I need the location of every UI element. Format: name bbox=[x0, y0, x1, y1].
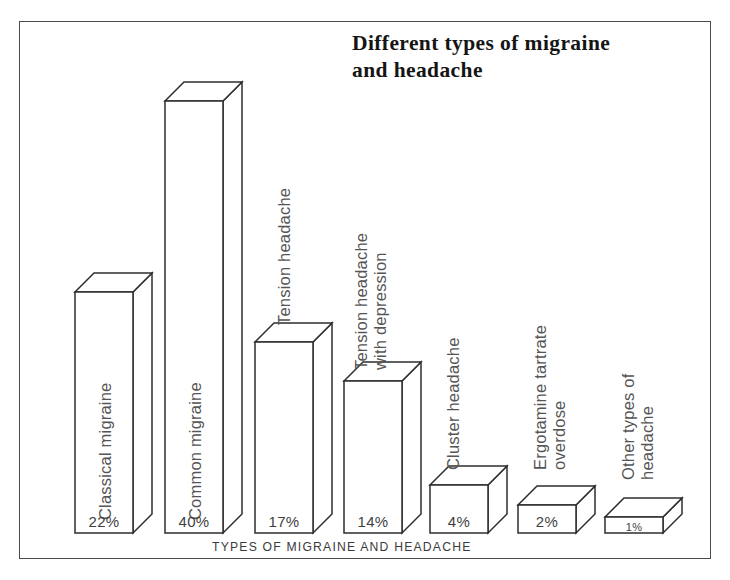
bar-value-label-5: 2% bbox=[518, 513, 576, 530]
bar-category-label-4: Cluster headache bbox=[444, 337, 463, 470]
bar-value-label-4: 4% bbox=[430, 513, 488, 530]
bar-category-label-5: Ergotamine tartrate overdose bbox=[531, 271, 569, 470]
bar-value-label-2: 17% bbox=[255, 513, 313, 530]
bar-category-label-1: Common migraine bbox=[186, 382, 205, 520]
bar-front-face-3 bbox=[344, 381, 402, 533]
bar-side-face-0 bbox=[133, 273, 152, 533]
chart-figure: Different types of migraine and headache… bbox=[0, 0, 730, 580]
bar-category-label-2: Tension headache bbox=[275, 188, 294, 325]
x-axis-label: TYPES OF MIGRAINE AND HEADACHE bbox=[212, 540, 471, 554]
bar-side-face-3 bbox=[402, 362, 421, 533]
bar-value-label-1: 40% bbox=[165, 513, 223, 530]
bar-category-label-3: Tension headache with depression bbox=[352, 233, 390, 370]
bar-value-label-6: 1% bbox=[605, 521, 663, 533]
bar-value-label-0: 22% bbox=[75, 513, 133, 530]
bar-value-label-3: 14% bbox=[344, 513, 402, 530]
bar-category-label-0: Classical migraine bbox=[96, 383, 115, 520]
bar-category-label-6: Other types of headache bbox=[619, 369, 657, 480]
bar-side-face-1 bbox=[223, 82, 242, 533]
bar-side-face-2 bbox=[313, 323, 332, 533]
bar-front-face-2 bbox=[255, 342, 313, 533]
